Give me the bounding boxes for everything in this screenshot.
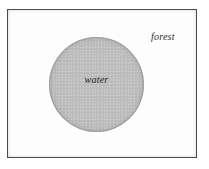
figure-border: water forest [7, 9, 197, 158]
forest-region-label: forest [151, 31, 175, 42]
water-region-label: water [49, 74, 144, 85]
figure-canvas: water forest [0, 0, 209, 169]
